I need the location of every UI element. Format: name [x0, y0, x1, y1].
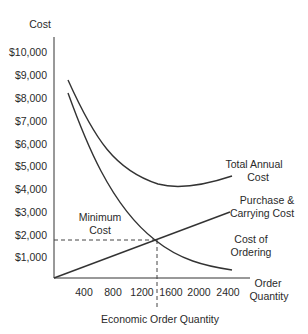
carrying-cost-label-line2: Carrying Cost	[230, 207, 294, 219]
total-cost-label-line2: Cost	[247, 171, 269, 183]
x-tick: 1200	[130, 286, 154, 298]
minimum-cost-label-line2: Cost	[89, 224, 111, 236]
y-tick: $4,000	[15, 183, 47, 195]
x-tick: 400	[75, 286, 93, 298]
y-tick: $6,000	[15, 138, 47, 150]
x-tick: 800	[104, 286, 122, 298]
x-tick: 2400	[216, 286, 240, 298]
carrying-cost-label-line1: Purchase &	[240, 194, 294, 206]
y-tick: $7,000	[15, 115, 47, 127]
eoq-label: Economic Order Quantity	[101, 313, 220, 325]
y-tick-labels: $10,000 $9,000 $8,000 $7,000 $6,000 $5,0…	[9, 46, 47, 263]
ordering-cost-label-line2: Ordering	[231, 246, 272, 258]
y-tick: $10,000	[9, 46, 47, 58]
total-cost-curve	[68, 80, 232, 187]
ordering-cost-label-line1: Cost of	[234, 233, 267, 245]
y-tick: $9,000	[15, 69, 47, 81]
minimum-cost-label-line1: Minimum	[79, 211, 122, 223]
x-axis-title-line1: Order	[255, 277, 282, 289]
x-tick: 1600	[159, 286, 183, 298]
y-axis-title: Cost	[29, 18, 51, 30]
total-cost-label-line1: Total Annual	[225, 158, 282, 170]
y-tick: $3,000	[15, 206, 47, 218]
x-tick: 2000	[187, 286, 211, 298]
eoq-chart: Cost $10,000 $9,000 $8,000 $7,000 $6,000…	[0, 0, 308, 334]
y-tick: $8,000	[15, 92, 47, 104]
y-tick: $5,000	[15, 160, 47, 172]
x-axis-title-line2: Quantity	[249, 290, 289, 302]
x-tick-labels: 400 800 1200 1600 2000 2400	[75, 286, 240, 298]
y-tick: $2,000	[15, 229, 47, 241]
y-tick: $1,000	[15, 251, 47, 263]
